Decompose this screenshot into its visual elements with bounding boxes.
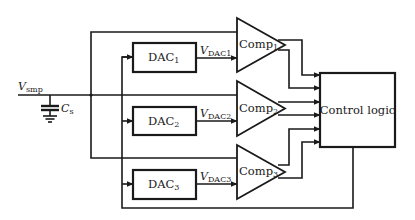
flash-adc-block-diagram: Vsmp Cs DAC1 VDA [0,0,415,220]
cs-label: Cs [61,102,74,116]
vdac2-label: VDAC2 [200,107,231,121]
vsmp-label: Vsmp [18,80,43,94]
vdac3-label: VDAC3 [200,170,231,184]
control-logic-block: Control logic [320,73,396,147]
comparator-1: Comp1 [237,18,320,88]
vdac1-label: VDAC1 [200,44,231,58]
comparator-3-label: Comp3 [239,164,278,179]
ground-icon [43,116,57,122]
dac-2-block: DAC2 VDAC2 [133,107,237,135]
comparator-2: Comp2 [237,81,320,136]
sampling-capacitor: Cs [41,95,74,122]
comparator-1-label: Comp1 [239,37,278,52]
dac-3-block: DAC3 VDAC3 [133,170,237,199]
input-node-vsmp: Vsmp [18,80,122,95]
control-logic-label: Control logic [320,103,396,117]
comparator-3: Comp3 [237,129,320,199]
dac-1-block: DAC1 VDAC1 [133,43,237,72]
comparator-2-label: Comp2 [239,101,278,116]
